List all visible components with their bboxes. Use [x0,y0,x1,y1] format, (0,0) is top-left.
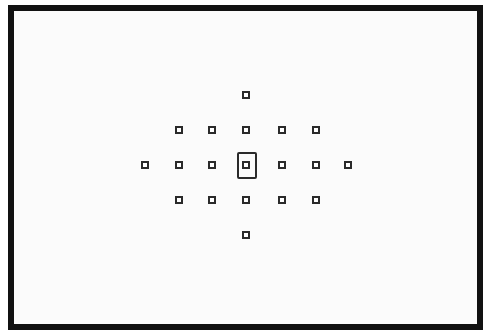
af-point-r4c3[interactable] [242,196,250,204]
af-point-bottom[interactable] [242,231,250,239]
af-point-top[interactable] [242,91,250,99]
af-point-r4c5[interactable] [312,196,320,204]
af-point-r3c6[interactable] [344,161,352,169]
af-point-r2c1[interactable] [175,126,183,134]
af-point-r3c5[interactable] [312,161,320,169]
af-point-r2c4[interactable] [278,126,286,134]
af-point-r3c1[interactable] [175,161,183,169]
af-point-r4c2[interactable] [208,196,216,204]
af-point-r4c4[interactable] [278,196,286,204]
af-point-r2c5[interactable] [312,126,320,134]
af-point-r2c2[interactable] [208,126,216,134]
af-point-r4c1[interactable] [175,196,183,204]
af-point-r3c0[interactable] [141,161,149,169]
af-point-r3c4[interactable] [278,161,286,169]
af-point-r3c2[interactable] [208,161,216,169]
af-point-r2c3[interactable] [242,126,250,134]
selected-af-point-frame [237,152,257,179]
